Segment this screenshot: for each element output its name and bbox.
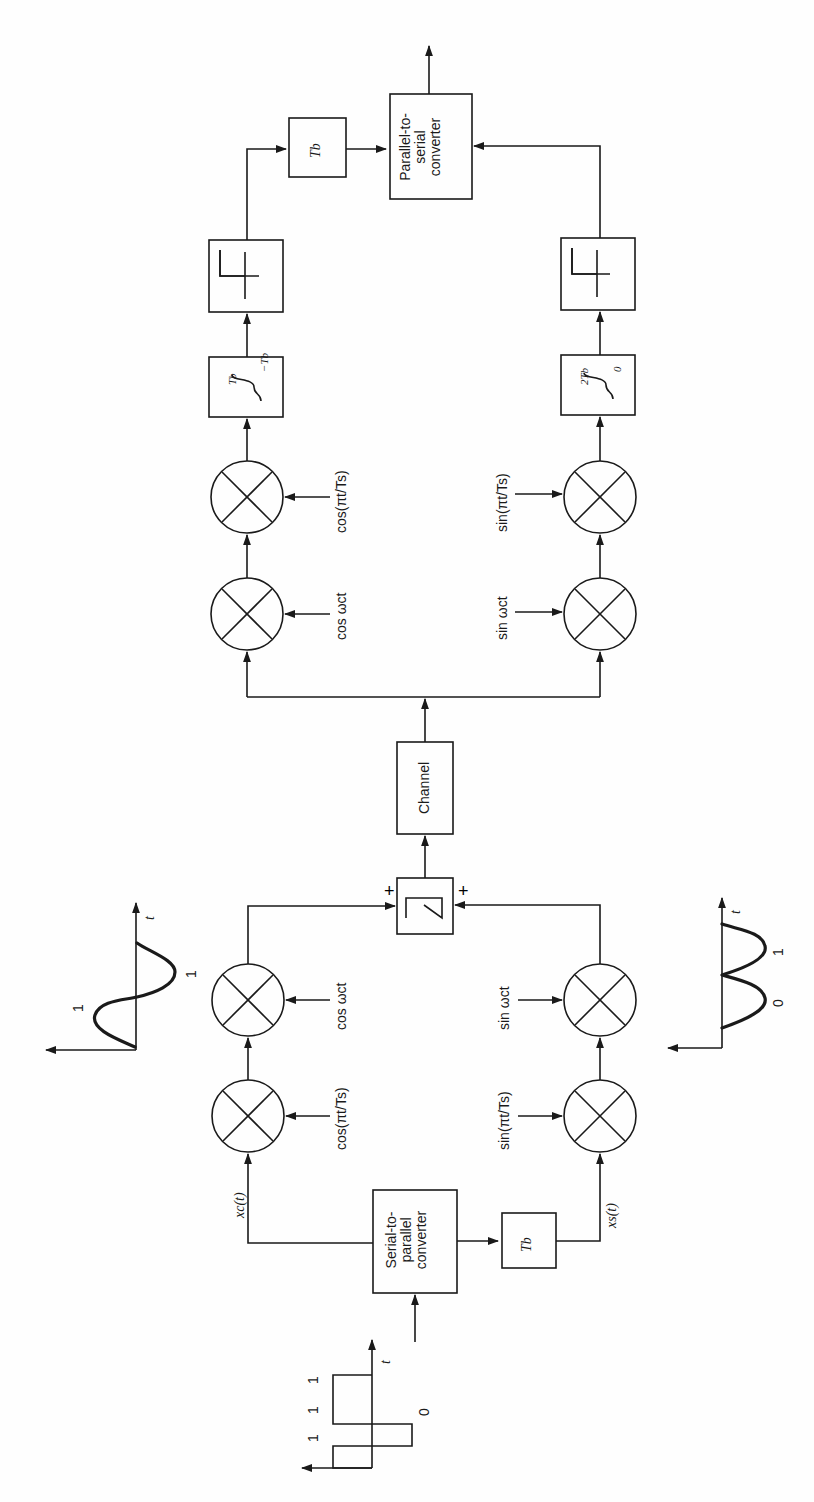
rx-mixer-upper-1: [211, 578, 283, 650]
input-bit-waveform: [302, 1340, 412, 1468]
cos-waveform-label-1: 1: [70, 1004, 86, 1012]
rx-sin-pi-label: sin(πt/Ts): [494, 473, 510, 532]
sin-waveform-time-label: t: [728, 910, 744, 914]
sin-waveform-label-1: 1: [770, 948, 786, 956]
tx-cos-wc-label: cos ωct: [333, 983, 349, 1031]
channel-label: Channel: [417, 756, 432, 820]
input-bit-label-4: 1: [305, 1376, 321, 1384]
tx-mixer-lower-2: [564, 964, 636, 1036]
tx-mixer-upper-2: [212, 964, 284, 1036]
input-bit-label-3: 1: [305, 1406, 321, 1414]
rx-sin-wc-label: sin ωct: [494, 596, 510, 640]
input-time-axis-label: t: [378, 1360, 394, 1364]
tx-sin-pi-label: sin(πt/Ts): [496, 1091, 512, 1150]
cos-waveform-label-2: 1: [183, 970, 199, 978]
xs-label: xs(t): [604, 1203, 620, 1228]
cos-waveform-time-label: t: [142, 916, 158, 920]
rx-cos-pi-label: cos(πt/Ts): [333, 470, 349, 533]
decision-device-lower: [561, 238, 635, 310]
tx-sin-wc-label: sin ωct: [496, 986, 512, 1030]
input-bit-label-1: 1: [305, 1434, 321, 1442]
integrator-upper-lower-limit: −Tb: [256, 353, 272, 372]
svg-text:+: +: [458, 881, 469, 901]
rx-mixer-lower-1: [564, 578, 636, 650]
integrator-upper-upper-limit: Tb: [224, 373, 240, 385]
parallel-to-serial-label: Parallel-to-serial converter: [398, 102, 443, 192]
integrator-lower-lower-limit: 0: [609, 367, 625, 373]
rx-mixer-upper-2: [211, 461, 283, 533]
integrator-lower: [561, 355, 635, 415]
cos-weighting-waveform: [46, 903, 175, 1050]
svg-text:+: +: [384, 881, 395, 901]
rx-mixer-lower-2: [564, 461, 636, 533]
summer: [397, 878, 453, 934]
rx-cos-wc-label: cos ωct: [333, 593, 349, 641]
sin-weighting-waveform: [668, 898, 765, 1048]
sin-waveform-label-0: 0: [770, 999, 786, 1007]
rx-delay-label: Tb: [308, 143, 324, 158]
xc-label: xc(t): [232, 1192, 248, 1218]
tx-mixer-lower-1: [564, 1080, 636, 1152]
input-bit-label-2: 0: [416, 1408, 432, 1416]
tx-cos-pi-label: cos(πt/Ts): [333, 1087, 349, 1150]
decision-device-upper: [209, 240, 283, 312]
tx-delay-label: Tb: [519, 1237, 535, 1252]
integrator-lower-upper-limit: 2Tb: [576, 368, 592, 385]
serial-to-parallel-label: Serial-to-parallel converter: [384, 1190, 429, 1290]
tx-mixer-upper-1: [212, 1080, 284, 1152]
